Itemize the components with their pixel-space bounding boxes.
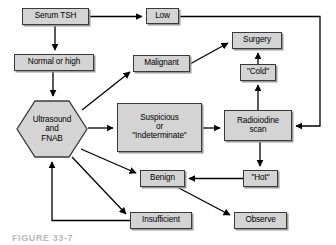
edge-insufficient-to-ultrasound — [52, 162, 130, 221]
node-malignant[interactable]: Malignant — [133, 55, 190, 72]
edge-malignant-to-surgery — [190, 43, 228, 64]
node-observe[interactable]: Observe — [234, 212, 287, 229]
node-radioiodine-scan[interactable]: Radioiodine scan — [224, 110, 292, 141]
thyroid-nodule-flowchart: Serum TSH Low Normal or high Malignant S… — [0, 0, 336, 245]
node-hot[interactable]: "Hot" — [243, 170, 278, 187]
node-insufficient[interactable]: Insufficient — [130, 212, 192, 229]
node-benign[interactable]: Benign — [140, 170, 185, 187]
node-low[interactable]: Low — [146, 8, 179, 24]
node-cold[interactable]: "Cold" — [240, 64, 276, 81]
node-surgery[interactable]: Surgery — [232, 32, 282, 49]
node-ultrasound-fnab-label: Ultrasound and FNAB — [16, 100, 88, 158]
node-normal-or-high[interactable]: Normal or high — [14, 54, 94, 71]
edge-ultrasound-to-benign — [81, 149, 136, 173]
edge-benign-to-observe — [177, 187, 230, 215]
node-suspicious-indeterminate[interactable]: Suspicious or "Indeterminate" — [117, 103, 202, 152]
figure-caption: FIGURE 33-7 — [12, 233, 73, 245]
node-ultrasound-fnab[interactable]: Ultrasound and FNAB — [16, 100, 88, 158]
node-serum-tsh[interactable]: Serum TSH — [22, 8, 89, 25]
